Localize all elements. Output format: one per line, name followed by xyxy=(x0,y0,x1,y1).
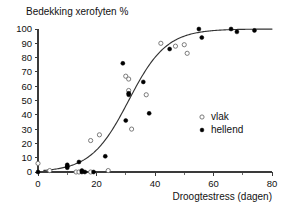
data-point-hellend xyxy=(83,170,87,174)
y-tick-label: 20 xyxy=(21,138,32,149)
y-tick-label: 80 xyxy=(21,52,32,63)
data-point-hellend xyxy=(252,28,256,32)
x-tick-label: 60 xyxy=(208,178,219,189)
data-point-vlak xyxy=(36,161,40,165)
series-vlak-points xyxy=(36,41,189,174)
chart-container: Bedekking xerofyten % 010203040506070809… xyxy=(0,0,290,218)
scatter-plot: Bedekking xerofyten % 010203040506070809… xyxy=(0,0,290,218)
data-point-vlak xyxy=(48,168,52,172)
data-point-vlak xyxy=(182,43,186,47)
data-point-vlak xyxy=(127,77,131,81)
data-point-hellend xyxy=(141,80,145,84)
y-tick-label: 0 xyxy=(27,166,32,177)
data-point-hellend xyxy=(200,36,204,40)
data-point-hellend xyxy=(103,154,107,158)
data-point-hellend xyxy=(77,160,81,164)
y-tick-label: 90 xyxy=(21,38,32,49)
chart-legend: vlakhellend xyxy=(200,111,243,135)
data-point-vlak xyxy=(144,93,148,97)
legend-marker-vlak xyxy=(200,115,204,119)
y-tick-label: 100 xyxy=(16,23,32,34)
data-point-hellend xyxy=(36,170,40,174)
data-point-vlak xyxy=(97,133,101,137)
x-tick-label: 0 xyxy=(35,178,40,189)
data-point-vlak xyxy=(106,168,110,172)
data-point-vlak xyxy=(173,44,177,48)
x-axis-title: Droogtestress (dagen) xyxy=(173,191,273,202)
y-tick-label: 70 xyxy=(21,66,32,77)
y-tick-label: 10 xyxy=(21,152,32,163)
data-point-hellend xyxy=(235,30,239,34)
data-point-hellend xyxy=(121,61,125,65)
y-axis-ticks: 0102030405060708090100 xyxy=(16,23,38,177)
legend-label-hellend: hellend xyxy=(211,124,243,135)
y-tick-label: 30 xyxy=(21,124,32,135)
data-point-vlak xyxy=(159,41,163,45)
y-axis-title: Bedekking xerofyten % xyxy=(26,6,128,17)
data-point-hellend xyxy=(147,111,151,115)
data-point-vlak xyxy=(130,127,134,131)
y-tick-label: 50 xyxy=(21,95,32,106)
data-point-hellend xyxy=(127,93,131,97)
data-point-hellend xyxy=(197,27,201,31)
x-tick-label: 80 xyxy=(267,178,278,189)
x-tick-label: 40 xyxy=(150,178,161,189)
series-hellend-points xyxy=(36,27,256,174)
x-tick-label: 20 xyxy=(91,178,102,189)
data-point-hellend xyxy=(124,119,128,123)
data-point-hellend xyxy=(168,47,172,51)
data-point-vlak xyxy=(185,51,189,55)
y-tick-label: 40 xyxy=(21,109,32,120)
legend-marker-hellend xyxy=(200,128,204,132)
data-point-vlak xyxy=(89,138,93,142)
data-point-hellend xyxy=(229,27,233,31)
x-axis-ticks: 020406080 xyxy=(35,172,277,189)
logistic-fit-curve xyxy=(44,29,272,170)
y-tick-label: 60 xyxy=(21,81,32,92)
data-point-hellend xyxy=(92,170,96,174)
legend-label-vlak: vlak xyxy=(211,111,230,122)
data-point-hellend xyxy=(65,166,69,170)
